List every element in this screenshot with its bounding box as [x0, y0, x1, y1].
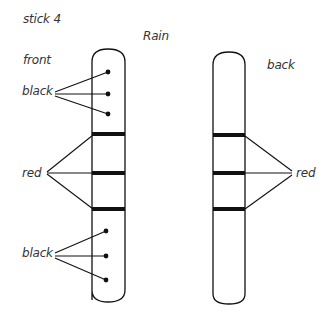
front-stick-outline: [92, 49, 125, 302]
front-top-dots: [106, 70, 111, 117]
back-band-2: [213, 171, 245, 175]
front-band-2: [92, 171, 125, 175]
front-band-3: [92, 207, 125, 211]
back-band-3: [213, 207, 245, 211]
back-red-leaders: [245, 136, 292, 209]
stick-diagram: [0, 0, 333, 324]
front-bottom-black-leaders: [55, 231, 106, 280]
front-red-leaders: [47, 135, 93, 209]
front-top-black-leaders: [55, 72, 108, 114]
back-band-1: [213, 133, 245, 137]
back-stick-outline: [213, 52, 245, 304]
front-band-1: [92, 132, 125, 136]
